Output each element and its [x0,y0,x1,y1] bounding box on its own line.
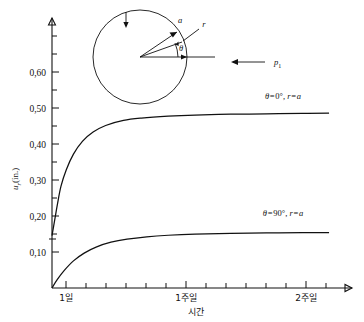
y-axis-title-unit: (in.) [10,168,20,183]
y-tick-label: 0,40 [29,140,46,150]
y-axis-ticks [52,36,59,252]
y-axis-title: ur(in.) [10,168,22,190]
inset-radius-a-line [140,32,177,57]
x-axis-ticks [66,281,326,288]
inset-r-leader [183,29,199,41]
series-label-theta-0: θ = 0°, r = a [265,91,301,101]
inset-label-pressure: p1 [273,57,281,69]
inset-inward-arrow-right [181,54,187,59]
inset-top-arrowhead [123,22,128,28]
series-line-theta-90 [52,233,329,288]
y-tick-labels: 0,10 0,20 0,30 0,40 0,50 0,60 [29,68,46,258]
inset-label-pressure-sub: 1 [278,63,281,69]
chart-figure: 0,10 0,20 0,30 0,40 0,50 0,60 ur(in.) 1일… [0,0,364,322]
series-label-theta-90: θ = 90°, r = a [263,208,303,218]
x-tick-label: 1일 [59,293,73,303]
inset-label-r: r [202,19,206,29]
y-tick-label: 0,60 [29,68,46,78]
x-tick-labels: 1일 1주일 2주일 [59,293,317,303]
inset-label-a: a [178,15,182,25]
inset-label-theta: θ [179,43,183,53]
inset-circle-diagram: a r θ p1 [93,10,281,104]
y-tick-label: 0,20 [29,212,46,222]
y-tick-label: 0,10 [29,248,46,258]
x-axis [52,285,352,292]
y-axis [49,18,56,288]
x-tick-label: 2주일 [295,293,317,303]
x-tick-label: 1주일 [175,293,197,303]
svg-text:ur(in.): ur(in.) [10,168,22,190]
y-tick-label: 0,30 [29,176,46,186]
inset-pressure-arrowhead [231,59,238,65]
x-axis-title: 시간 [188,307,204,317]
y-tick-label: 0,50 [29,104,46,114]
